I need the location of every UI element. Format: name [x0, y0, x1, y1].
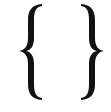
curly-braces-icon — [0, 0, 111, 112]
right-brace — [81, 4, 104, 100]
left-brace — [19, 4, 42, 100]
